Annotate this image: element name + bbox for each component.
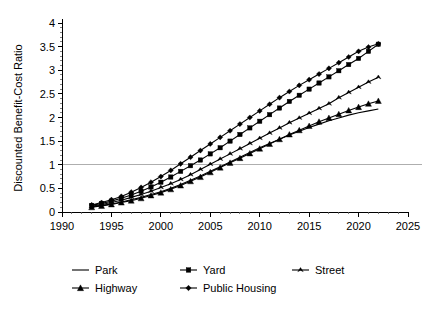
legend-label: Park [95,264,118,276]
data-marker-square [208,152,212,156]
data-marker-square [307,87,311,91]
legend-label: Highway [95,282,138,294]
data-marker-square [267,112,271,116]
data-marker-square [337,69,341,73]
data-marker-square [169,175,173,179]
x-axis-tick-label: 2010 [247,220,271,232]
chart-figure: 00.511.522.533.54 1990199520002005201020… [0,0,444,314]
data-marker-square [346,62,350,66]
x-axis-tick-label: 2000 [149,220,173,232]
data-marker-square [297,93,301,97]
data-marker-square [277,106,281,110]
x-axis-tick-label: 1995 [99,220,123,232]
data-marker-square [356,56,360,60]
data-marker-square [238,132,242,136]
x-axis-tick-label: 2025 [396,220,420,232]
benefit-cost-ratio-line-chart: 00.511.522.533.54 1990199520002005201020… [0,0,444,314]
data-marker-square [149,185,153,189]
data-marker-square [198,158,202,162]
legend-label: Yard [203,264,225,276]
x-axis-tick-label: 2015 [297,220,321,232]
y-axis-tick-label: 2 [49,112,55,124]
data-marker-square [287,99,291,103]
data-marker-square [178,169,182,173]
data-marker-square [159,180,163,184]
data-marker-square [317,81,321,85]
y-axis-tick-label: 1 [49,159,55,171]
data-marker-square [248,126,252,130]
data-marker-square [258,119,262,123]
y-axis-tick-label: 0 [49,206,55,218]
y-axis-tick-label: 4 [49,17,55,29]
y-axis-tick-label: 1.5 [40,135,55,147]
data-marker-square [188,163,192,167]
legend-label: Street [315,264,344,276]
x-axis-tick-label: 2020 [346,220,370,232]
data-marker-square [327,75,331,79]
x-axis-tick-label: 1990 [50,220,74,232]
y-axis-title: Discounted Benefit-Cost Ratio [12,44,24,191]
y-axis-tick-label: 3.5 [40,41,55,53]
data-marker-square [228,139,232,143]
data-marker-square [186,268,191,273]
y-axis-tick-label: 3 [49,64,55,76]
legend-label: Public Housing [203,282,276,294]
data-marker-square [218,146,222,150]
y-axis-tick-label: 0.5 [40,182,55,194]
y-axis-tick-label: 2.5 [40,88,55,100]
x-axis-tick-label: 2005 [198,220,222,232]
